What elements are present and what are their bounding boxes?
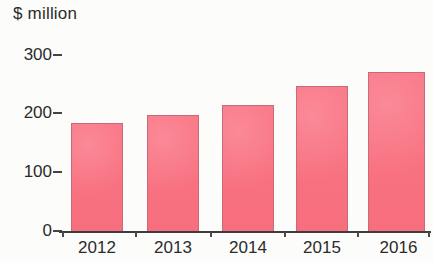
- y-tick-label-100: 100: [24, 162, 52, 182]
- y-tick-label-300: 300: [24, 45, 52, 65]
- x-tick-label-2015: 2015: [296, 238, 348, 258]
- y-tick-label-200: 200: [24, 103, 52, 123]
- bar-2013: [147, 115, 199, 232]
- bar-2015: [296, 86, 348, 232]
- x-tick-mark-left: [62, 232, 64, 237]
- x-tick-mark-4: [357, 232, 359, 237]
- x-axis-line: [59, 231, 431, 233]
- x-tick-label-2014: 2014: [222, 238, 274, 258]
- bar-fill: [223, 106, 273, 231]
- bar-fill: [148, 116, 198, 231]
- x-tick-mark-3: [284, 232, 286, 237]
- y-tick-mark-100: [53, 171, 62, 173]
- bar-fill: [369, 73, 424, 231]
- x-tick-label-2012: 2012: [71, 238, 123, 258]
- bar-chart: $ million 300 200 100 0 2012 2013 2014 2: [0, 0, 433, 263]
- y-axis-tick-labels: 300 200 100 0: [0, 0, 52, 263]
- bar-2014: [222, 105, 274, 232]
- bar-2016: [368, 72, 425, 232]
- x-tick-mark-2: [210, 232, 212, 237]
- y-tick-label-0: 0: [43, 221, 52, 241]
- bar-fill: [72, 124, 122, 231]
- plot-area: [64, 40, 433, 232]
- x-tick-mark-1: [135, 232, 137, 237]
- y-tick-mark-200: [53, 112, 62, 114]
- x-tick-label-2013: 2013: [147, 238, 199, 258]
- x-tick-mark-right: [428, 232, 430, 237]
- bar-2012: [71, 123, 123, 232]
- y-tick-mark-300: [53, 54, 62, 56]
- x-tick-label-2016: 2016: [370, 238, 427, 258]
- bar-fill: [297, 87, 347, 231]
